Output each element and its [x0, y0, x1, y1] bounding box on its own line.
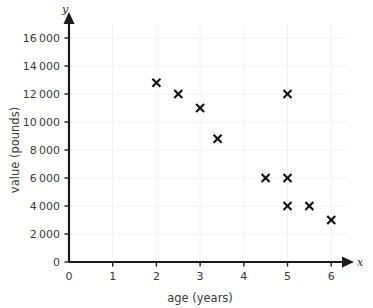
y-tick-label: 14 000 [23, 60, 60, 73]
y-tick-label: 16 000 [23, 32, 60, 45]
x-tick-label: 4 [240, 270, 247, 283]
x-tick-label: 6 [328, 270, 335, 283]
y-tick-label: 6 000 [30, 172, 60, 185]
y-tick-label: 0 [53, 256, 60, 269]
x-tick-label: 3 [197, 270, 204, 283]
y-tick-label: 2 000 [30, 228, 60, 241]
y-tick-label: 10 000 [23, 116, 60, 129]
y-axis-label: value (pounds) [8, 107, 22, 193]
y-axis-variable: y [61, 3, 69, 16]
y-tick-label: 4 000 [30, 200, 60, 213]
x-tick-label: 0 [66, 270, 73, 283]
scatter-plot-figure: 0123456 02 0004 0006 0008 00010 00012 00… [0, 0, 373, 308]
x-axis-label: age (years) [167, 291, 233, 305]
y-tick-label: 12 000 [23, 88, 60, 101]
x-axis-variable: x [357, 256, 364, 269]
y-tick-label: 8 000 [30, 144, 60, 157]
x-tick-label: 5 [284, 270, 291, 283]
x-tick-label: 2 [153, 270, 160, 283]
x-tick-label: 1 [109, 270, 116, 283]
chart-canvas: 0123456 02 0004 0006 0008 00010 00012 00… [0, 0, 373, 308]
